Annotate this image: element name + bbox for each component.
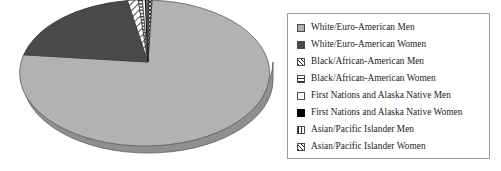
- pie-chart-graphic: [0, 0, 285, 171]
- legend-item-white-euro-american-men[interactable]: White/Euro-American Men: [297, 19, 489, 36]
- slice-white-euro-american-women: [24, 1, 148, 62]
- chart-legend: White/Euro-American Men White/Euro-Ameri…: [287, 13, 490, 159]
- legend-item-label: White/Euro-American Women: [311, 39, 426, 50]
- pie-svg: [0, 0, 285, 171]
- cross-hatch-swatch-icon: [297, 143, 305, 151]
- legend-item-black-african-american-women[interactable]: Black/African-American Women: [297, 70, 489, 87]
- diagonal-hatch-swatch-icon: [297, 58, 305, 66]
- legend-item-label: Black/African-American Women: [311, 73, 436, 84]
- legend-item-asian-pacific-islander-men[interactable]: Asian/Pacific Islander Men: [297, 121, 489, 138]
- legend-item-label: Asian/Pacific Islander Women: [311, 141, 426, 152]
- horizontal-lines-swatch-icon: [297, 75, 305, 83]
- vertical-lines-swatch-icon: [297, 126, 305, 134]
- black-solid-swatch-icon: [297, 109, 305, 117]
- legend-item-label: Black/African-American Men: [311, 56, 424, 67]
- legend-item-first-nations-and-alaska-native-men[interactable]: First Nations and Alaska Native Men: [297, 87, 489, 104]
- legend-item-label: First Nations and Alaska Native Men: [311, 90, 451, 101]
- dark-gray-solid-swatch-icon: [297, 41, 305, 49]
- legend-item-black-african-american-men[interactable]: Black/African-American Men: [297, 53, 489, 70]
- light-gray-solid-swatch-icon: [297, 24, 305, 32]
- white-solid-swatch-icon: [297, 92, 305, 100]
- legend-item-label: Asian/Pacific Islander Men: [311, 124, 414, 135]
- legend-item-white-euro-american-women[interactable]: White/Euro-American Women: [297, 36, 489, 53]
- legend-item-label: First Nations and Alaska Native Women: [311, 107, 462, 118]
- legend-item-asian-pacific-islander-women[interactable]: Asian/Pacific Islander Women: [297, 138, 489, 155]
- pie-chart-figure: White/Euro-American Men White/Euro-Ameri…: [0, 0, 501, 171]
- legend-item-label: White/Euro-American Men: [311, 22, 415, 33]
- legend-item-first-nations-and-alaska-native-women[interactable]: First Nations and Alaska Native Women: [297, 104, 489, 121]
- pie-top-face: [20, 0, 270, 146]
